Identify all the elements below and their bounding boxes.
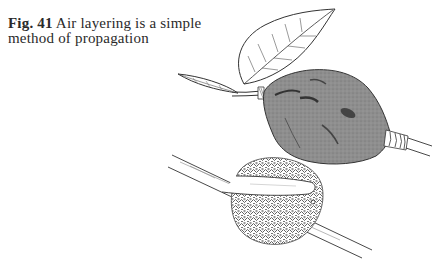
leaf-small: [178, 74, 238, 93]
air-layering-illustration: [0, 0, 442, 262]
moss-ball: [231, 158, 323, 245]
polythene-bag: [263, 70, 390, 164]
wire-tie-bottom: [384, 130, 432, 156]
